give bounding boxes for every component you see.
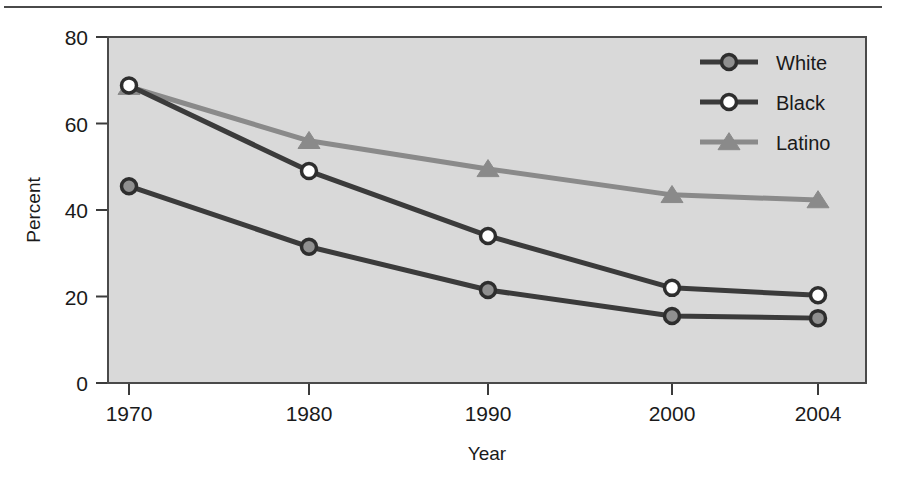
line-chart: 020406080 19701980199020002004 WhiteBlac… xyxy=(0,0,902,479)
data-point-marker xyxy=(302,164,317,179)
y-tick-label: 80 xyxy=(65,26,88,49)
legend-label: Latino xyxy=(776,132,831,154)
data-point-marker xyxy=(122,78,137,93)
data-point-marker xyxy=(481,228,496,243)
x-tick-label: 2000 xyxy=(649,402,696,425)
y-tick-label: 60 xyxy=(65,113,88,136)
x-axis-ticks: 19701980199020002004 xyxy=(106,383,842,425)
data-point-marker xyxy=(302,239,317,254)
x-tick-label: 2004 xyxy=(795,402,842,425)
data-point-marker xyxy=(811,311,826,326)
x-tick-label: 1970 xyxy=(106,402,153,425)
chart-svg: 020406080 19701980199020002004 WhiteBlac… xyxy=(0,0,902,479)
data-point-marker xyxy=(481,283,496,298)
x-tick-label: 1990 xyxy=(465,402,512,425)
data-point-marker xyxy=(665,280,680,295)
y-tick-label: 40 xyxy=(65,199,88,222)
y-axis-title: Percent xyxy=(23,177,44,243)
x-axis-title: Year xyxy=(468,443,507,464)
data-point-marker xyxy=(811,288,826,303)
y-tick-label: 20 xyxy=(65,286,88,309)
y-axis-ticks: 020406080 xyxy=(65,26,108,395)
open-circle-icon xyxy=(722,95,737,110)
x-tick-label: 1980 xyxy=(286,402,333,425)
data-point-marker xyxy=(665,308,680,323)
plot-area-background xyxy=(108,37,866,383)
legend-label: Black xyxy=(776,92,826,114)
y-tick-label: 0 xyxy=(76,372,88,395)
legend-label: White xyxy=(776,52,827,74)
filled-circle-icon xyxy=(722,55,737,70)
data-point-marker xyxy=(122,179,137,194)
figure-container: 020406080 19701980199020002004 WhiteBlac… xyxy=(0,0,902,479)
